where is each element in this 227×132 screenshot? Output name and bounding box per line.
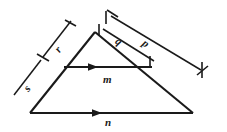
dimension-rs-middle-tick	[37, 54, 49, 61]
flow-line-m	[64, 63, 152, 71]
geometry-figure: m n r s q p	[0, 0, 227, 132]
flow-line-n-arrowhead	[92, 109, 102, 117]
dimension-p-start-tick	[107, 10, 118, 17]
flow-line-m-arrowhead	[88, 63, 98, 71]
figure-canvas	[0, 0, 227, 132]
label-m: m	[103, 74, 112, 85]
flow-line-n	[31, 109, 192, 117]
triangle-left-side	[30, 32, 95, 113]
label-n: n	[105, 117, 111, 128]
